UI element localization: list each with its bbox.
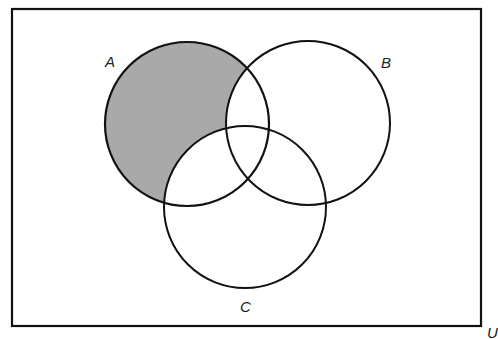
set-label-c: C — [240, 298, 251, 315]
venn-diagram: A B C U — [0, 0, 498, 339]
universe-label: U — [487, 324, 498, 339]
set-label-a: A — [104, 53, 115, 70]
set-label-b: B — [381, 54, 391, 71]
